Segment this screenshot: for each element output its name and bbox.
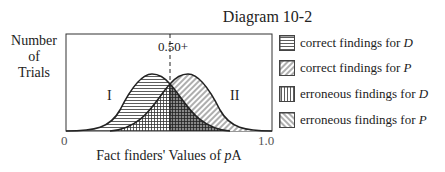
- back-diagonal-hatch-swatch: [279, 112, 295, 128]
- legend-item-correct-p: correct findings for P: [279, 59, 412, 77]
- diagonal-hatch-swatch: [279, 60, 295, 76]
- threshold-label: 0.50+: [158, 39, 188, 55]
- legend-item-erroneous-d: erroneous findings for D: [279, 85, 428, 103]
- x-tick-1: 1.0: [258, 133, 274, 149]
- x-axis-label: Fact finders' Values of pA: [66, 148, 272, 164]
- legend-item-erroneous-p: erroneous findings for P: [279, 111, 427, 129]
- x-tick-0: 0: [61, 133, 68, 149]
- curve-ii-label: II: [230, 88, 239, 104]
- curve-i-label: I: [107, 88, 112, 104]
- legend-item-correct-d: correct findings for D: [279, 34, 413, 52]
- horizontal-hatch-swatch: [279, 35, 295, 51]
- vertical-hatch-swatch: [279, 86, 295, 102]
